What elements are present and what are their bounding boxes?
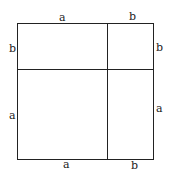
vertical-divider [107, 23, 108, 160]
label-right-a: a [156, 103, 163, 114]
label-top-b: b [129, 11, 136, 22]
outer-left-edge [17, 23, 18, 160]
horizontal-divider [17, 69, 154, 70]
label-top-a: a [59, 12, 66, 23]
label-bottom-b: b [131, 160, 138, 171]
outer-right-edge [153, 23, 154, 160]
label-right-b: b [156, 42, 163, 53]
label-left-a: a [9, 110, 16, 121]
label-left-b: b [9, 43, 16, 54]
label-bottom-a: a [63, 159, 70, 170]
outer-top-edge [17, 23, 154, 24]
